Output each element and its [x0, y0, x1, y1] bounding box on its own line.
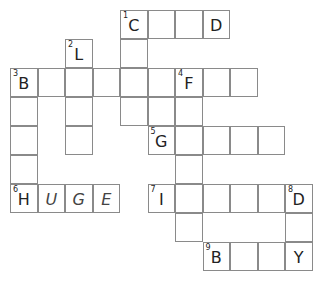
crossword-cell[interactable]: 3B	[10, 68, 38, 97]
cell-letter: C	[121, 18, 147, 34]
cell-letter: Y	[286, 250, 312, 266]
cell-letter: B	[204, 250, 230, 266]
crossword-cell[interactable]: D	[203, 10, 231, 39]
crossword-cell[interactable]	[175, 126, 203, 155]
crossword-cell[interactable]: E	[93, 184, 121, 213]
crossword-cell[interactable]	[65, 68, 93, 97]
crossword-cell[interactable]	[230, 184, 258, 213]
crossword-cell[interactable]	[175, 155, 203, 184]
crossword-cell[interactable]	[230, 68, 258, 97]
crossword-cell[interactable]	[10, 97, 38, 126]
crossword-cell[interactable]	[65, 97, 93, 126]
crossword-cell[interactable]	[120, 39, 148, 68]
crossword-cell[interactable]	[203, 126, 231, 155]
crossword-cell[interactable]: 8D	[285, 184, 313, 213]
cell-letter: E	[94, 192, 120, 208]
crossword-cell[interactable]	[10, 155, 38, 184]
crossword-cell[interactable]	[93, 68, 121, 97]
cell-letter: I	[149, 192, 175, 208]
crossword-cell[interactable]	[10, 126, 38, 155]
crossword-cell[interactable]	[175, 213, 203, 242]
cell-letter: H	[11, 192, 37, 208]
crossword-cell[interactable]	[203, 184, 231, 213]
crossword-cell[interactable]: 4F	[175, 68, 203, 97]
crossword-cell[interactable]	[148, 10, 176, 39]
crossword-cell[interactable]: 1C	[120, 10, 148, 39]
crossword-cell[interactable]	[258, 242, 286, 271]
crossword-cell[interactable]	[65, 126, 93, 155]
crossword-cell[interactable]	[38, 68, 66, 97]
cell-letter: D	[286, 192, 312, 208]
crossword-cell[interactable]	[175, 10, 203, 39]
crossword-cell[interactable]: U	[38, 184, 66, 213]
crossword-cell[interactable]: 5G	[148, 126, 176, 155]
cell-letter: F	[176, 76, 202, 92]
cell-letter: U	[39, 192, 65, 208]
crossword-cell[interactable]	[203, 68, 231, 97]
cell-letter: G	[149, 134, 175, 150]
crossword-cell[interactable]	[175, 184, 203, 213]
crossword-cell[interactable]: 9B	[203, 242, 231, 271]
crossword-grid: 1CD2L3B4F5G6HUGE7I8D9BY	[0, 0, 321, 281]
crossword-cell[interactable]	[258, 184, 286, 213]
cell-letter: B	[11, 76, 37, 92]
cell-letter: D	[204, 18, 230, 34]
crossword-cell[interactable]	[230, 242, 258, 271]
crossword-cell[interactable]	[175, 97, 203, 126]
crossword-cell[interactable]: G	[65, 184, 93, 213]
crossword-cell[interactable]: Y	[285, 242, 313, 271]
crossword-cell[interactable]: 2L	[65, 39, 93, 68]
crossword-cell[interactable]	[285, 213, 313, 242]
crossword-cell[interactable]	[230, 126, 258, 155]
crossword-cell[interactable]	[120, 68, 148, 97]
crossword-cell[interactable]	[148, 97, 176, 126]
crossword-cell[interactable]: 6H	[10, 184, 38, 213]
crossword-cell[interactable]	[120, 97, 148, 126]
cell-letter: G	[66, 192, 92, 208]
crossword-cell[interactable]	[148, 68, 176, 97]
crossword-cell[interactable]	[258, 126, 286, 155]
cell-letter: L	[66, 47, 92, 63]
crossword-cell[interactable]: 7I	[148, 184, 176, 213]
